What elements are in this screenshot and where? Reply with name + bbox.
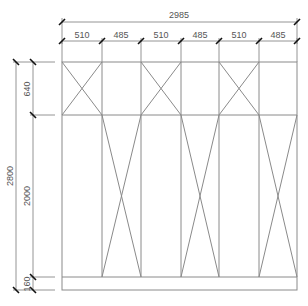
top-section-height-label: 640: [22, 81, 32, 96]
panel-5-width: 510: [231, 30, 246, 40]
height-dimensions: 2800 640 2000 160: [5, 59, 55, 293]
top-cross-panels: [62, 62, 259, 115]
panel-4-width: 485: [192, 30, 207, 40]
cabinet-frame: [62, 62, 297, 290]
overall-width-label: 2985: [169, 10, 189, 20]
base-height-label: 160: [22, 276, 32, 291]
elevation-drawing: 2985 510 485 510 485 510 485: [0, 0, 308, 306]
panel-width-dimensions: 510 485 510 485 510 485: [59, 30, 300, 62]
panel-1-width: 510: [74, 30, 89, 40]
panel-2-width: 485: [113, 30, 128, 40]
panel-6-width: 485: [270, 30, 285, 40]
middle-section-height-label: 2000: [22, 186, 32, 206]
overall-width-dimension: 2985: [59, 10, 300, 44]
panel-3-width: 510: [153, 30, 168, 40]
overall-height-label: 2800: [5, 166, 15, 186]
lower-cross-panels: [102, 115, 297, 277]
